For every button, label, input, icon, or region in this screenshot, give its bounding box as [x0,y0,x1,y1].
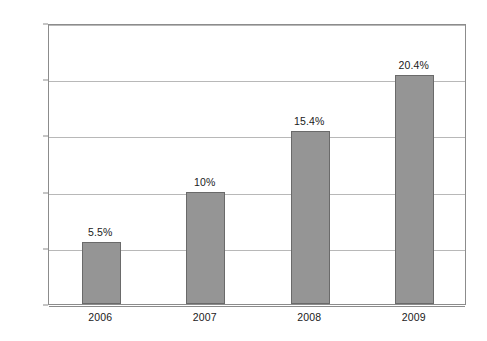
value-label-2009: 20.4% [399,59,429,71]
category-label-2006: 2006 [88,311,112,323]
bar-2007[interactable] [186,192,225,304]
category-label-2007: 2007 [193,311,217,323]
bar-chart: 0%5%10%15%20%25% 5.5%10%15.4%20.4% 20062… [0,0,487,341]
bar-2006[interactable] [82,242,121,304]
value-label-2007: 10% [194,176,215,188]
category-label-2009: 2009 [402,311,426,323]
category-label-2008: 2008 [297,311,321,323]
value-label-2006: 5.5% [88,226,112,238]
value-label-2008: 15.4% [294,115,324,127]
gridline-0% [49,306,465,307]
bar-2008[interactable] [291,131,330,304]
gridline-25% [49,25,465,26]
bar-2009[interactable] [395,75,434,304]
